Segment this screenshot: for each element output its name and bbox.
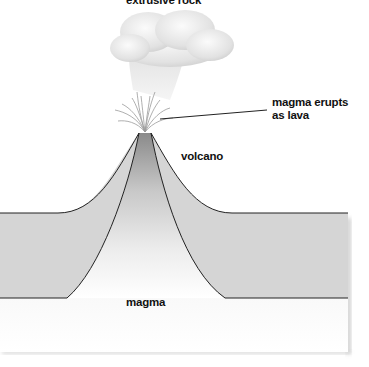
label-as-lava: as lava [272, 109, 309, 122]
label-volcano: volcano [181, 150, 223, 163]
ash-cloud [110, 10, 234, 100]
label-magma-erupts: magma erupts [272, 96, 348, 109]
label-magma: magma [126, 296, 165, 309]
volcano-diagram [0, 0, 369, 367]
label-extrusive-rock: extrusive rock [126, 0, 201, 7]
leader-line-eruption [160, 110, 267, 119]
